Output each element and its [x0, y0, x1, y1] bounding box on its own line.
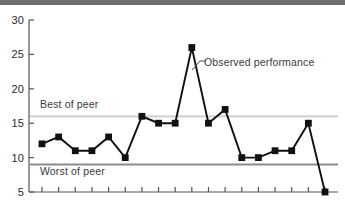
data-point-marker	[55, 134, 62, 141]
data-point-marker	[89, 147, 96, 154]
data-point-marker	[272, 147, 279, 154]
data-point-marker	[255, 154, 262, 161]
chart-figure: 30 25 20 15 10 5 Best of peer Worst of p…	[0, 0, 345, 207]
best-of-peer-label: Best of peer	[40, 98, 98, 110]
data-point-marker	[39, 140, 46, 147]
ytick-label-10: 10	[2, 152, 24, 164]
ytick-label-20: 20	[2, 83, 24, 95]
data-point-marker	[155, 120, 162, 127]
data-point-marker	[222, 106, 229, 113]
data-point-marker	[238, 154, 245, 161]
data-point-marker	[138, 113, 145, 120]
data-point-marker	[172, 120, 179, 127]
data-point-marker	[122, 154, 129, 161]
data-point-marker	[305, 120, 312, 127]
data-point-marker	[205, 120, 212, 127]
data-point-marker	[188, 44, 195, 51]
data-point-marker	[105, 134, 112, 141]
data-point-marker	[72, 147, 79, 154]
ytick-label-25: 25	[2, 48, 24, 60]
ytick-label-5: 5	[2, 186, 24, 198]
worst-of-peer-label: Worst of peer	[40, 165, 105, 177]
ytick-label-30: 30	[2, 14, 24, 26]
data-point-marker	[288, 147, 295, 154]
data-point-marker	[322, 189, 329, 196]
ytick-label-15: 15	[2, 117, 24, 129]
observed-performance-label: Observed performance	[204, 56, 314, 68]
